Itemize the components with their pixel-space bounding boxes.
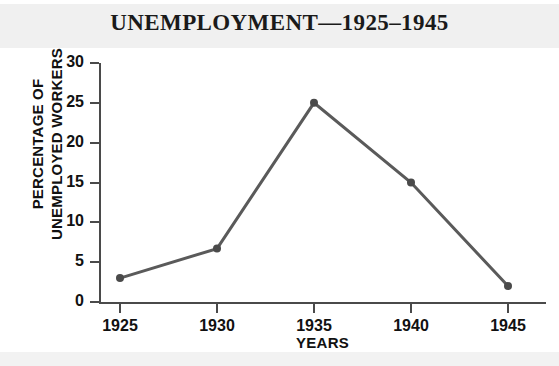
y-axis-label: PERCENTAGE OF UNEMPLOYED WORKERS <box>28 19 66 269</box>
data-point-marker <box>504 282 512 290</box>
y-axis-tick: 0 <box>90 301 99 303</box>
x-axis-tick-label: 1930 <box>199 317 235 335</box>
x-axis-tick-label: 1935 <box>296 317 332 335</box>
y-axis-label-line-1: PERCENTAGE OF <box>28 19 47 269</box>
y-axis-tick-label: 20 <box>66 133 84 151</box>
series-line <box>120 103 508 286</box>
data-point-marker <box>310 99 318 107</box>
x-axis-tick-label: 1925 <box>102 317 138 335</box>
y-axis-tick: 30 <box>90 62 99 64</box>
data-point-marker <box>116 274 124 282</box>
x-axis-tick: 1935 <box>313 304 315 313</box>
data-point-marker <box>407 179 415 187</box>
x-axis-tick: 1925 <box>119 304 121 313</box>
x-axis-tick: 1940 <box>410 304 412 313</box>
y-axis-tick-label: 10 <box>66 212 84 230</box>
y-axis-tick: 20 <box>90 142 99 144</box>
y-axis-tick: 10 <box>90 221 99 223</box>
y-axis-tick-label: 25 <box>66 93 84 111</box>
plot-area: 051015202530 19251930193519401945 <box>99 63 546 304</box>
x-axis-tick: 1945 <box>507 304 509 313</box>
x-axis-label: YEARS <box>99 334 546 351</box>
x-axis-tick: 1930 <box>216 304 218 313</box>
y-axis-label-line-2: UNEMPLOYED WORKERS <box>47 19 66 269</box>
y-axis-tick-label: 15 <box>66 173 84 191</box>
y-axis-tick: 25 <box>90 102 99 104</box>
y-axis-tick-label: 0 <box>75 292 84 310</box>
y-axis-tick: 5 <box>90 261 99 263</box>
footer-band <box>0 352 559 366</box>
y-axis-tick-label: 5 <box>75 252 84 270</box>
x-axis-tick-label: 1940 <box>393 317 429 335</box>
chart-title: UNEMPLOYMENT—1925–1945 <box>0 10 559 36</box>
y-axis-tick-label: 30 <box>66 53 84 71</box>
data-point-marker <box>213 245 221 253</box>
y-axis-tick: 15 <box>90 182 99 184</box>
x-axis-tick-label: 1945 <box>490 317 526 335</box>
line-series <box>99 63 546 304</box>
